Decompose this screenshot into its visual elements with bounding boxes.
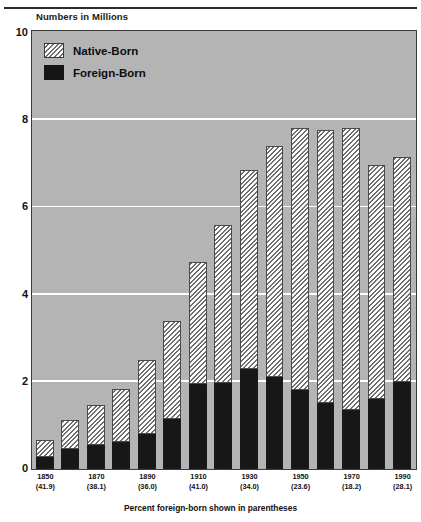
- bar-segment-native-born: [61, 420, 79, 450]
- y-axis-tick-10: 10: [2, 26, 28, 38]
- bar-1860[interactable]: [61, 420, 79, 469]
- bar-segment-foreign-born: [138, 434, 156, 469]
- bar-segment-foreign-born: [393, 382, 411, 469]
- bar-segment-native-born: [291, 128, 309, 390]
- bar-segment-native-born: [138, 360, 156, 434]
- bar-segment-native-born: [163, 321, 181, 419]
- x-axis-label-year: 1930: [241, 472, 257, 481]
- legend-swatch-native-born-icon: [44, 43, 64, 58]
- bar-1970[interactable]: [342, 128, 360, 469]
- bar-1960[interactable]: [317, 130, 335, 469]
- bar-segment-native-born: [112, 389, 130, 442]
- bar-segment-foreign-born: [266, 377, 284, 469]
- x-axis-label-1930: 1930(34.0): [240, 472, 259, 491]
- bar-1890[interactable]: [138, 360, 156, 469]
- bar-segment-foreign-born: [87, 445, 105, 469]
- legend-label-native-born: Native-Born: [73, 45, 138, 57]
- x-axis-label-1890: 1890(36.0): [138, 472, 157, 491]
- bar-1880[interactable]: [112, 389, 130, 469]
- bar-segment-native-born: [36, 440, 54, 457]
- x-axis-label-percent: (34.0): [240, 482, 259, 492]
- legend: Native-Born Foreign-Born: [44, 43, 146, 87]
- x-axis-label-percent: (23.6): [291, 482, 310, 492]
- bar-1900[interactable]: [163, 321, 181, 470]
- bar-1930[interactable]: [240, 170, 258, 469]
- x-axis-label-year: 1910: [190, 472, 206, 481]
- bar-segment-native-born: [368, 165, 386, 399]
- x-axis-label-year: 1950: [292, 472, 308, 481]
- y-axis-tick-2: 2: [2, 375, 28, 387]
- y-axis-tick-0: 0: [2, 462, 28, 474]
- legend-label-foreign-born: Foreign-Born: [73, 67, 146, 79]
- bar-segment-native-born: [266, 146, 284, 378]
- bar-series: [32, 31, 416, 469]
- x-axis-label-percent: (41.0): [189, 482, 208, 492]
- top-rule: [4, 7, 417, 9]
- x-axis-labels: 1850(41.9)1870(38.1)1890(36.0)1910(41.0)…: [31, 472, 417, 498]
- bar-segment-native-born: [189, 262, 207, 384]
- bar-segment-foreign-born: [291, 390, 309, 469]
- x-axis-label-year: 1890: [139, 472, 155, 481]
- bar-1980[interactable]: [368, 165, 386, 469]
- bar-segment-native-born: [214, 225, 232, 382]
- legend-swatch-foreign-born-icon: [44, 65, 64, 80]
- x-axis-label-percent: (28.1): [393, 482, 412, 492]
- bar-1870[interactable]: [87, 405, 105, 469]
- x-axis-label-1870: 1870(38.1): [87, 472, 106, 491]
- y-axis-title: Numbers in Millions: [36, 11, 128, 22]
- bar-segment-native-born: [317, 130, 335, 403]
- bar-1910[interactable]: [189, 262, 207, 469]
- x-axis-label-percent: (36.0): [138, 482, 157, 492]
- y-axis-tick-6: 6: [2, 200, 28, 212]
- plot-area: Native-Born Foreign-Born: [31, 30, 417, 470]
- y-axis: 0246810: [0, 30, 28, 470]
- bar-segment-foreign-born: [317, 403, 335, 469]
- bar-segment-native-born: [342, 128, 360, 410]
- x-axis-label-1850: 1850(41.9): [36, 472, 55, 491]
- x-axis-label-1990: 1990(28.1): [393, 472, 412, 491]
- bar-segment-foreign-born: [163, 419, 181, 469]
- x-axis-label-1910: 1910(41.0): [189, 472, 208, 491]
- x-axis-label-percent: (18.2): [342, 482, 361, 492]
- plot-inner: [32, 31, 416, 469]
- bar-segment-foreign-born: [36, 457, 54, 469]
- y-axis-tick-4: 4: [2, 288, 28, 300]
- x-axis-label-year: 1870: [88, 472, 104, 481]
- bar-1920[interactable]: [214, 225, 232, 469]
- chart-caption: Percent foreign-born shown in parenthese…: [0, 503, 421, 513]
- bar-1990[interactable]: [393, 157, 411, 469]
- bar-1940[interactable]: [266, 146, 284, 469]
- bar-segment-foreign-born: [342, 410, 360, 469]
- bar-segment-foreign-born: [61, 449, 79, 469]
- y-axis-tick-8: 8: [2, 113, 28, 125]
- x-axis-label-percent: (41.9): [36, 482, 55, 492]
- chart-root: Numbers in Millions 0246810 Native-Born …: [0, 0, 421, 522]
- bar-segment-foreign-born: [112, 442, 130, 469]
- bar-segment-native-born: [240, 170, 258, 369]
- x-axis-label-year: 1850: [37, 472, 53, 481]
- x-axis-label-year: 1990: [395, 472, 411, 481]
- legend-item-foreign-born: Foreign-Born: [44, 65, 146, 80]
- bar-segment-foreign-born: [240, 369, 258, 469]
- bar-segment-foreign-born: [368, 399, 386, 469]
- bar-segment-foreign-born: [214, 383, 232, 469]
- bar-1950[interactable]: [291, 128, 309, 469]
- x-axis-label-1950: 1950(23.6): [291, 472, 310, 491]
- x-axis-label-year: 1970: [343, 472, 359, 481]
- x-axis-label-percent: (38.1): [87, 482, 106, 492]
- bar-segment-native-born: [87, 405, 105, 445]
- bar-1850[interactable]: [36, 440, 54, 469]
- bar-segment-native-born: [393, 157, 411, 382]
- legend-item-native-born: Native-Born: [44, 43, 146, 58]
- bar-segment-foreign-born: [189, 384, 207, 469]
- x-axis-label-1970: 1970(18.2): [342, 472, 361, 491]
